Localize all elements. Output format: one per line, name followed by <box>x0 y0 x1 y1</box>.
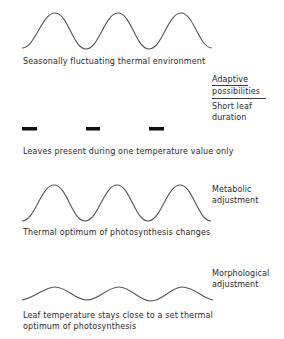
header-divider <box>212 98 266 99</box>
morphological-label-line-2: adjustment <box>212 279 259 290</box>
metabolic-wave <box>22 185 211 221</box>
metabolic-caption: Thermal optimum of photosynthesis change… <box>23 228 210 238</box>
morphological-caption-line-1: Leaf temperature stays close to a set th… <box>23 311 213 321</box>
morphological-caption-line-2: optimum of photosynthesis <box>23 322 136 332</box>
leaf-period-bar <box>149 127 164 131</box>
environment-wave <box>22 13 212 49</box>
header-line-1: Adaptive <box>212 74 248 86</box>
adaptive-possibilities-header: Adaptive possibilities Short leaf durati… <box>212 74 266 123</box>
header-line-2: possibilities <box>212 86 266 97</box>
short-leaf-caption: Leaves present during one temperature va… <box>23 147 234 157</box>
leaf-period-bar <box>22 127 37 131</box>
short-leaf-label-line-2: duration <box>212 112 266 123</box>
metabolic-label-line-2: adjustment <box>212 195 259 206</box>
short-leaf-label-line-1: Short leaf <box>212 101 266 112</box>
morphological-label-line-1: Morphological <box>212 268 269 279</box>
leaf-period-bar <box>86 127 100 131</box>
metabolic-label-line-1: Metabolic <box>212 184 252 195</box>
morphological-wave <box>22 287 213 301</box>
environment-caption: Seasonally fluctuating thermal environme… <box>23 57 205 67</box>
